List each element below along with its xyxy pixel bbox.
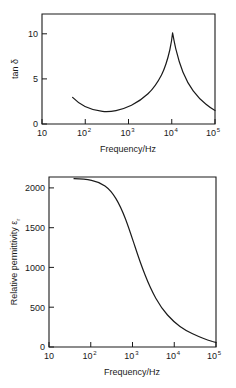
permittivity-y-tick-labels: 0 500 1000 1500 2000 <box>25 183 45 352</box>
tan-delta-xtick-10000: 10 4 <box>164 127 179 139</box>
svg-text:10: 10 <box>207 351 217 361</box>
permittivity-xtick-100: 10 2 <box>82 350 97 362</box>
permittivity-x-ticks <box>49 342 216 347</box>
permittivity-xtick-10: 10 <box>44 351 54 361</box>
svg-text:10: 10 <box>77 128 87 138</box>
tan-delta-xtick-100000: 10 5 <box>206 127 221 139</box>
svg-text:3: 3 <box>131 127 135 133</box>
svg-text:10: 10 <box>82 351 92 361</box>
svg-text:10: 10 <box>164 128 174 138</box>
permittivity-ytick-1500: 1500 <box>25 223 45 233</box>
tan-delta-xtick-10: 10 <box>37 128 47 138</box>
tan-delta-curve <box>73 33 215 112</box>
svg-text:10: 10 <box>124 351 134 361</box>
svg-text:3: 3 <box>135 350 139 356</box>
svg-text:5: 5 <box>217 127 221 133</box>
tan-delta-xaxis-title: Frequency/Hz <box>100 144 157 154</box>
tan-delta-chart-svg: 0 5 10 10 10 2 10 3 10 4 <box>0 0 236 160</box>
permittivity-chart-svg: 0 500 1000 1500 2000 10 10 2 10 3 <box>0 160 236 388</box>
svg-text:2: 2 <box>93 350 97 356</box>
tan-delta-ytick-5: 5 <box>33 74 38 84</box>
svg-text:Relative permittivity εr: Relative permittivity εr <box>9 219 21 306</box>
permittivity-xtick-10000: 10 4 <box>166 350 181 362</box>
tan-delta-x-tick-labels: 10 10 2 10 3 10 4 10 5 <box>37 127 221 139</box>
svg-text:10: 10 <box>120 128 130 138</box>
figure-container: 0 5 10 10 10 2 10 3 10 4 <box>0 0 236 388</box>
permittivity-ytick-500: 500 <box>30 303 45 313</box>
permittivity-xtick-1000: 10 3 <box>124 350 139 362</box>
svg-text:10: 10 <box>166 351 176 361</box>
svg-text:5: 5 <box>218 350 222 356</box>
permittivity-yaxis-title-main: Relative permittivity ε <box>9 221 19 306</box>
svg-text:10: 10 <box>44 351 54 361</box>
svg-text:2: 2 <box>88 127 92 133</box>
svg-text:4: 4 <box>177 350 181 356</box>
tan-delta-plot-frame <box>42 14 215 124</box>
tan-delta-y-tick-labels: 0 5 10 <box>28 29 38 129</box>
tan-delta-x-ticks <box>42 119 215 124</box>
permittivity-curve <box>74 179 216 343</box>
svg-text:10: 10 <box>206 128 216 138</box>
tan-delta-y-ticks <box>42 34 47 124</box>
permittivity-yaxis-title-sub: r <box>15 219 21 221</box>
tan-delta-xtick-1000: 10 3 <box>120 127 135 139</box>
chart-panel-tan-delta: 0 5 10 10 10 2 10 3 10 4 <box>0 0 236 160</box>
permittivity-y-ticks <box>49 188 54 347</box>
permittivity-ytick-2000: 2000 <box>25 183 45 193</box>
tan-delta-ytick-10: 10 <box>28 29 38 39</box>
permittivity-plot-frame <box>49 177 216 347</box>
permittivity-ytick-1000: 1000 <box>25 263 45 273</box>
tan-delta-xtick-100: 10 2 <box>77 127 92 139</box>
permittivity-yaxis-title: Relative permittivity εr <box>9 219 21 306</box>
svg-text:10: 10 <box>37 128 47 138</box>
permittivity-xaxis-title: Frequency/Hz <box>104 367 161 377</box>
svg-text:4: 4 <box>175 127 179 133</box>
permittivity-x-tick-labels: 10 10 2 10 3 10 4 10 5 <box>44 350 222 362</box>
permittivity-xtick-100000: 10 5 <box>207 350 222 362</box>
chart-panel-permittivity: 0 500 1000 1500 2000 10 10 2 10 3 <box>0 160 236 388</box>
tan-delta-yaxis-title: tan δ <box>10 59 20 79</box>
